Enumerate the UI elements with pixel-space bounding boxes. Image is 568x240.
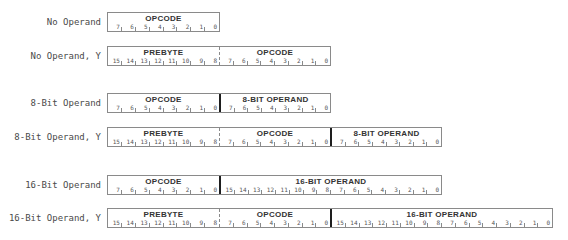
field-title: OPCODE bbox=[108, 95, 219, 104]
bit-number: 8 bbox=[317, 186, 331, 194]
bit-number: 7 bbox=[220, 138, 234, 146]
bit-number: 4 bbox=[373, 138, 387, 146]
bit-number: 9 bbox=[191, 138, 205, 146]
field-8bit-operand: 8-BIT OPERAND 76543210 bbox=[219, 94, 330, 112]
bit-number: 12 bbox=[373, 219, 387, 227]
bit-number: 14 bbox=[235, 186, 249, 194]
bit-number: 0 bbox=[316, 104, 330, 112]
bit-number: 6 bbox=[122, 104, 136, 112]
bit-number: 6 bbox=[122, 186, 136, 194]
bit-number: 9 bbox=[191, 57, 205, 65]
bit-number: 4 bbox=[150, 104, 164, 112]
field-opcode: OPCODE 76543210 bbox=[108, 13, 219, 31]
bit-number: 4 bbox=[262, 104, 276, 112]
bit-number: 5 bbox=[136, 186, 150, 194]
format-row-16bit-operand-y: 16-Bit Operand, Y PREBYTE 15141312111098… bbox=[0, 208, 568, 228]
bit-number: 11 bbox=[276, 186, 290, 194]
bit-number: 6 bbox=[235, 104, 249, 112]
instruction-format-box: PREBYTE 15141312111098 OPCODE 76543210 bbox=[107, 46, 331, 66]
field-16bit-operand: 16-BIT OPERAND 1514131211109876543210 bbox=[330, 209, 552, 227]
bit-numbers: 15141312111098 bbox=[108, 138, 219, 146]
bit-number: 5 bbox=[136, 23, 150, 31]
field-title: OPCODE bbox=[220, 129, 330, 138]
field-title: 16-BIT OPERAND bbox=[221, 177, 441, 186]
bit-number: 0 bbox=[205, 23, 219, 31]
bit-number: 5 bbox=[470, 219, 484, 227]
bit-number: 12 bbox=[150, 138, 164, 146]
bit-number: 0 bbox=[316, 219, 330, 227]
bit-number: 11 bbox=[387, 219, 401, 227]
format-row-no-operand-y: No Operand, Y PREBYTE 15141312111098 OPC… bbox=[0, 46, 568, 66]
bit-number: 2 bbox=[289, 57, 303, 65]
bit-number: 1 bbox=[525, 219, 539, 227]
bit-number: 7 bbox=[332, 138, 346, 146]
field-opcode: OPCODE 76543210 bbox=[108, 176, 219, 194]
bit-number: 1 bbox=[303, 104, 317, 112]
format-row-16bit-operand: 16-Bit Operand OPCODE 76543210 16-BIT OP… bbox=[0, 175, 568, 195]
field-title: PREBYTE bbox=[108, 129, 219, 138]
bit-number: 6 bbox=[122, 23, 136, 31]
bit-number: 4 bbox=[261, 57, 275, 65]
row-label: No Operand, Y bbox=[31, 51, 101, 61]
field-title: 8-BIT OPERAND bbox=[332, 129, 441, 138]
bit-number: 3 bbox=[275, 57, 289, 65]
field-title: OPCODE bbox=[220, 48, 330, 57]
bit-numbers: 76543210 bbox=[220, 57, 330, 65]
bit-number: 3 bbox=[275, 219, 289, 227]
bit-number: 4 bbox=[261, 219, 275, 227]
format-row-8bit-operand: 8-Bit Operand OPCODE 76543210 8-BIT OPER… bbox=[0, 93, 568, 113]
bit-numbers: 76543210 bbox=[220, 219, 330, 227]
bit-number: 7 bbox=[220, 57, 234, 65]
field-prebyte: PREBYTE 15141312111098 bbox=[108, 47, 219, 65]
bit-number: 9 bbox=[415, 219, 429, 227]
instruction-format-box: OPCODE 76543210 8-BIT OPERAND 76543210 bbox=[107, 93, 331, 113]
bit-number: 2 bbox=[289, 138, 303, 146]
bit-number: 5 bbox=[248, 57, 262, 65]
bit-number: 7 bbox=[108, 186, 122, 194]
row-label: No Operand bbox=[47, 17, 101, 27]
bit-numbers: 1514131211109876543210 bbox=[332, 219, 552, 227]
format-row-8bit-operand-y: 8-Bit Operand, Y PREBYTE 15141312111098 … bbox=[0, 127, 568, 147]
bit-number: 6 bbox=[234, 57, 248, 65]
bit-number: 10 bbox=[177, 219, 191, 227]
bit-number: 11 bbox=[164, 219, 178, 227]
bit-numbers: 1514131211109876543210 bbox=[221, 186, 441, 194]
field-title: OPCODE bbox=[108, 177, 219, 186]
field-title: PREBYTE bbox=[108, 48, 219, 57]
field-opcode: OPCODE 76543210 bbox=[219, 209, 330, 227]
field-prebyte: PREBYTE 15141312111098 bbox=[108, 209, 219, 227]
bit-number: 1 bbox=[191, 186, 205, 194]
bit-numbers: 76543210 bbox=[220, 138, 330, 146]
bit-number: 5 bbox=[248, 104, 262, 112]
bit-number: 13 bbox=[360, 219, 374, 227]
bit-number: 0 bbox=[316, 138, 330, 146]
row-label: 16-Bit Operand bbox=[25, 180, 101, 190]
bit-number: 5 bbox=[136, 104, 150, 112]
field-prebyte: PREBYTE 15141312111098 bbox=[108, 128, 219, 146]
bit-number: 2 bbox=[289, 104, 303, 112]
bit-number: 12 bbox=[150, 57, 164, 65]
bit-number: 6 bbox=[234, 138, 248, 146]
bit-number: 12 bbox=[262, 186, 276, 194]
field-title: 16-BIT OPERAND bbox=[332, 210, 552, 219]
bit-number: 5 bbox=[359, 186, 373, 194]
bit-number: 3 bbox=[387, 138, 401, 146]
field-opcode: OPCODE 76543210 bbox=[219, 128, 330, 146]
field-title: PREBYTE bbox=[108, 210, 219, 219]
bit-number: 5 bbox=[248, 219, 262, 227]
bit-number: 15 bbox=[108, 138, 122, 146]
bit-number: 5 bbox=[359, 138, 373, 146]
field-title: OPCODE bbox=[220, 210, 330, 219]
bit-number: 11 bbox=[164, 57, 178, 65]
bit-number: 6 bbox=[456, 219, 470, 227]
field-title: 8-BIT OPERAND bbox=[221, 95, 330, 104]
instruction-format-box: PREBYTE 15141312111098 OPCODE 76543210 1… bbox=[107, 208, 553, 228]
bit-number: 14 bbox=[122, 138, 136, 146]
bit-number: 5 bbox=[248, 138, 262, 146]
bit-number: 6 bbox=[345, 186, 359, 194]
bit-number: 8 bbox=[205, 138, 219, 146]
bit-number: 2 bbox=[400, 138, 414, 146]
bit-number: 7 bbox=[331, 186, 345, 194]
bit-number: 2 bbox=[400, 186, 414, 194]
bit-number: 0 bbox=[538, 219, 552, 227]
